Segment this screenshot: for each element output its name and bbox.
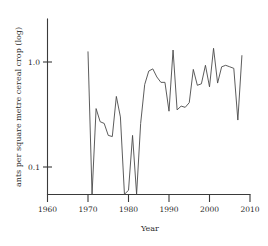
x-tick-label-2000: 2000 xyxy=(200,205,219,214)
x-tick-label-1980: 1980 xyxy=(119,205,138,214)
x-axis-title: Year xyxy=(140,224,159,233)
y-axis-title: ants per square metre cereal crop (log) xyxy=(14,27,23,187)
data-series-line xyxy=(88,48,242,194)
chart-canvas: 1.0 0.1 1960 1970 1980 1990 2000 2010 Ye… xyxy=(0,0,268,246)
y-tick-label-0.1: 0.1 xyxy=(28,163,40,172)
x-tick-label-2010: 2010 xyxy=(240,205,259,214)
x-tick-label-1970: 1970 xyxy=(78,205,97,214)
y-tick-label-1: 1.0 xyxy=(28,58,40,67)
x-tick-label-1960: 1960 xyxy=(38,205,57,214)
x-tick-label-1990: 1990 xyxy=(159,205,178,214)
chart-figure: 1.0 0.1 1960 1970 1980 1990 2000 2010 Ye… xyxy=(0,0,268,246)
